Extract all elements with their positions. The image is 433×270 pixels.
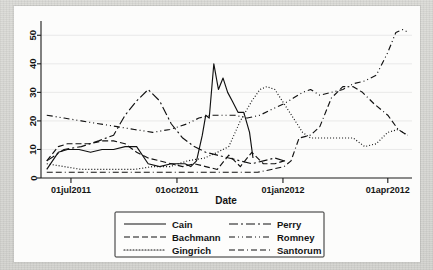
legend-label-bachmann[interactable]: Bachmann: [172, 232, 221, 243]
legend-label-romney[interactable]: Romney: [277, 232, 315, 243]
y-tick-label-40: 40: [28, 59, 39, 70]
x-tick-label-01oct2011: 01oct2011: [155, 185, 198, 195]
x-tick-label-01apr2012: 01apr2012: [366, 185, 410, 195]
y-tick-label-0: 0: [28, 175, 39, 180]
y-tick-label-30: 30: [28, 87, 39, 98]
y-tick-label-10: 10: [28, 144, 39, 155]
x-tick-label-01jul2011: 01jul2011: [51, 185, 91, 195]
legend-label-gingrich[interactable]: Gingrich: [172, 245, 211, 256]
y-tick-label-20: 20: [28, 116, 39, 127]
chart-figure: 01020304050 01jul201101oct201101jan20120…: [14, 6, 420, 262]
legend: CainBachmannGingrichPerryRomneySantorum: [115, 212, 324, 257]
y-tick-label-50: 50: [28, 30, 39, 41]
legend-label-cain[interactable]: Cain: [172, 219, 193, 230]
line-chart: 01020304050 01jul201101oct201101jan20120…: [14, 6, 420, 262]
x-axis-title: Date: [215, 195, 237, 206]
legend-label-perry[interactable]: Perry: [277, 219, 302, 230]
x-tick-label-01jan2012: 01jan2012: [261, 185, 304, 195]
legend-label-santorum[interactable]: Santorum: [277, 245, 321, 256]
